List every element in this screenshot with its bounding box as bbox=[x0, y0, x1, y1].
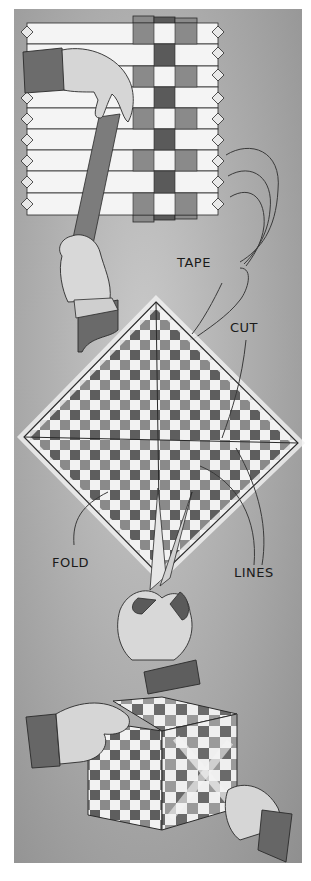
label-cut: CUT bbox=[230, 320, 258, 335]
label-lines: LINES bbox=[234, 565, 274, 580]
hand-bottom bbox=[60, 235, 118, 352]
woven-mat bbox=[21, 16, 224, 222]
label-fold: FOLD bbox=[52, 555, 89, 570]
hand-right-cube bbox=[225, 785, 292, 862]
label-tape: TAPE bbox=[177, 255, 211, 270]
illustration-drawing bbox=[0, 0, 311, 881]
